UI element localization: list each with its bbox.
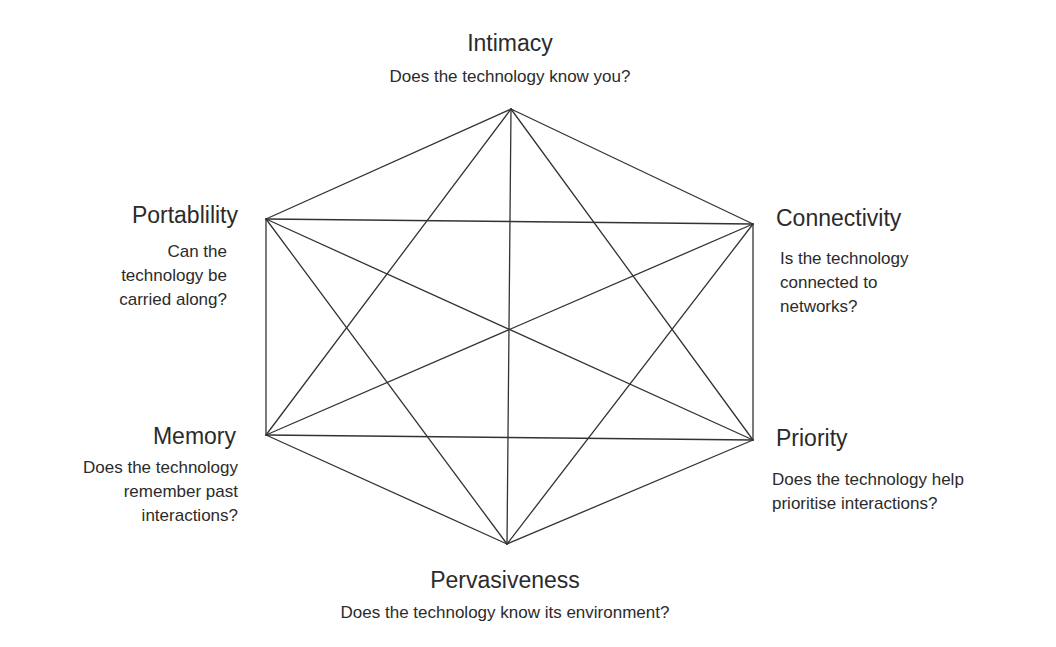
- description-line: carried along?: [40, 288, 227, 312]
- node-intimacy: Intimacy Does the technology know you?: [300, 30, 720, 89]
- node-description-intimacy: Does the technology know you?: [300, 65, 720, 89]
- edge-intimacy-pervasiveness: [507, 109, 511, 544]
- node-title-memory: Memory: [0, 423, 236, 450]
- edge-pervasiveness-portability: [266, 219, 507, 544]
- node-description-memory: Does the technology remember past intera…: [0, 456, 238, 528]
- node-description-pervasiveness: Does the technology know its environment…: [250, 601, 760, 625]
- node-description-connectivity: Is the technology connected to networks?: [780, 247, 1016, 319]
- description-line: Is the technology: [780, 247, 1016, 271]
- edge-priority-pervasiveness: [507, 440, 753, 544]
- edge-priority-memory: [266, 435, 753, 440]
- description-line: networks?: [780, 295, 1016, 319]
- edge-intimacy-connectivity: [511, 109, 753, 224]
- edge-intimacy-memory: [266, 109, 511, 435]
- node-pervasiveness: Pervasiveness Does the technology know i…: [250, 567, 760, 625]
- description-line: remember past: [0, 480, 238, 504]
- edge-intimacy-priority: [511, 109, 753, 440]
- diagram-edges: [266, 109, 753, 544]
- node-priority: Priority Does the technology help priori…: [776, 425, 1046, 516]
- node-title-portability: Portablility: [40, 202, 238, 229]
- node-title-connectivity: Connectivity: [776, 205, 1016, 232]
- node-connectivity: Connectivity Is the technology connected…: [776, 205, 1016, 319]
- description-line: technology be: [40, 264, 227, 288]
- node-title-priority: Priority: [776, 425, 1046, 452]
- node-title-intimacy: Intimacy: [300, 30, 720, 57]
- node-title-pervasiveness: Pervasiveness: [250, 567, 760, 594]
- node-portability: Portablility Can the technology be carri…: [40, 202, 238, 312]
- node-description-portability: Can the technology be carried along?: [40, 240, 227, 312]
- hexagon-network-diagram: [0, 0, 1056, 647]
- description-line: connected to: [780, 271, 1016, 295]
- description-line: interactions?: [0, 504, 238, 528]
- node-memory: Memory Does the technology remember past…: [0, 423, 238, 528]
- description-line: Does the technology: [0, 456, 238, 480]
- description-line: Does the technology know you?: [300, 65, 720, 89]
- description-line: Does the technology know its environment…: [250, 601, 760, 625]
- description-line: prioritise interactions?: [772, 492, 1046, 516]
- edge-pervasiveness-memory: [266, 435, 507, 544]
- description-line: Can the: [40, 240, 227, 264]
- edge-intimacy-portability: [266, 109, 511, 219]
- description-line: Does the technology help: [772, 468, 1046, 492]
- node-description-priority: Does the technology help prioritise inte…: [772, 468, 1046, 516]
